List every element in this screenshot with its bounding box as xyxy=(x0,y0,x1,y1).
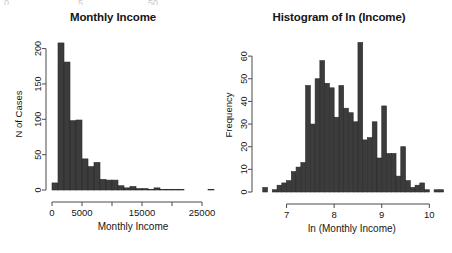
histogram-bar xyxy=(287,181,292,192)
histogram-bar xyxy=(88,167,94,190)
y-tick-label: 50 xyxy=(33,150,43,160)
histogram-bar xyxy=(310,124,315,192)
histogram-bar xyxy=(142,189,148,190)
histogram-bar xyxy=(344,108,349,192)
y-tick-label: 100 xyxy=(33,112,43,127)
histogram-bar xyxy=(82,159,88,190)
histogram-bar xyxy=(348,113,353,192)
histogram-bar xyxy=(420,183,425,192)
histogram-bar xyxy=(434,190,439,192)
histogram-bar xyxy=(277,185,282,192)
histogram-bar xyxy=(58,43,64,190)
histogram-bar xyxy=(415,185,420,192)
histogram-bar xyxy=(306,86,311,192)
y-tick-label: 50 xyxy=(239,74,249,84)
x-tick-label: 7 xyxy=(284,209,289,220)
histogram-bar xyxy=(315,79,320,192)
y-tick-label: 0 xyxy=(33,187,43,192)
histogram-bar xyxy=(130,186,136,190)
x-tick-label: 0 xyxy=(49,207,54,218)
histogram-bar xyxy=(377,158,382,192)
y-tick-label: 20 xyxy=(239,142,249,152)
histogram-bar xyxy=(363,140,368,192)
histogram-bar xyxy=(372,122,377,192)
histogram-bar xyxy=(166,189,172,190)
histogram-bar xyxy=(339,86,344,192)
x-tick-label: 5000 xyxy=(71,207,92,218)
y-axis-title: N of Cases xyxy=(13,90,24,137)
histogram-bar xyxy=(401,147,406,192)
histogram-bar xyxy=(70,121,76,190)
x-tick-label: 25000 xyxy=(189,207,215,218)
histogram-bar xyxy=(325,83,330,192)
x-axis-title: Monthly Income xyxy=(98,221,169,232)
histogram-bar xyxy=(64,62,70,190)
histogram-bar xyxy=(382,106,387,192)
histogram-bar xyxy=(124,188,130,190)
histogram-bar xyxy=(52,183,58,190)
y-tick-label: 10 xyxy=(239,164,249,174)
histogram-bar xyxy=(263,187,268,192)
histogram-bar xyxy=(387,154,392,193)
histogram-bar xyxy=(160,189,166,190)
y-tick-label: 0 xyxy=(239,189,249,194)
y-axis: 050100150200 xyxy=(33,41,46,192)
histogram-bar xyxy=(76,120,82,190)
bars-group xyxy=(52,43,214,190)
histogram-bar xyxy=(406,181,411,192)
histogram-bar xyxy=(94,162,100,190)
histogram-bar xyxy=(172,189,178,190)
x-tick-label: 8 xyxy=(332,209,337,220)
histogram-bar xyxy=(410,187,415,192)
x-tick-label: 10 xyxy=(424,209,435,220)
histogram-bar xyxy=(301,163,306,192)
histogram-bar xyxy=(334,117,339,192)
histogram-bar xyxy=(100,179,106,190)
histogram-bar xyxy=(154,188,160,190)
histogram-bar xyxy=(118,186,124,190)
y-axis: 0102030405060 xyxy=(239,51,252,194)
histogram-bar xyxy=(208,189,214,190)
histogram-bar xyxy=(367,138,372,192)
histogram-bar xyxy=(396,176,401,192)
histogram-bar xyxy=(291,172,296,192)
plot-ln-income: 0102030405060Frequency78910ln (Monthly I… xyxy=(226,0,452,253)
y-tick-label: 200 xyxy=(33,41,43,56)
histogram-bar xyxy=(282,183,287,192)
histogram-bar xyxy=(439,190,444,192)
histogram-bar xyxy=(353,122,358,192)
x-axis: 78910 xyxy=(284,204,435,220)
histogram-bar xyxy=(329,88,334,192)
x-tick-label: 9 xyxy=(379,209,384,220)
x-axis: 050001500025000 xyxy=(49,202,215,218)
y-axis-title: Frequency xyxy=(226,92,234,137)
x-axis-title: ln (Monthly Income) xyxy=(308,223,396,234)
histogram-bar xyxy=(296,167,301,192)
figure-canvas: 0 5 50 Monthly Income 050100150200N of C… xyxy=(0,0,452,253)
plot-monthly-income: 050100150200N of Cases050001500025000Mon… xyxy=(0,0,226,253)
histogram-bar xyxy=(106,180,112,190)
y-tick-label: 40 xyxy=(239,96,249,106)
panel-ln-income: Histogram of ln (Income) 0102030405060Fr… xyxy=(226,0,452,253)
histogram-bar xyxy=(358,43,363,192)
y-tick-label: 60 xyxy=(239,51,249,61)
x-tick-label: 15000 xyxy=(129,207,155,218)
bars-group xyxy=(263,43,444,192)
histogram-bar xyxy=(320,61,325,192)
histogram-bar xyxy=(391,154,396,193)
histogram-bar xyxy=(272,190,277,192)
panel-monthly-income: Monthly Income 050100150200N of Cases050… xyxy=(0,0,226,253)
y-tick-label: 150 xyxy=(33,76,43,91)
histogram-bar xyxy=(425,190,430,192)
histogram-bar xyxy=(136,189,142,190)
y-tick-label: 30 xyxy=(239,119,249,129)
histogram-bar xyxy=(112,180,118,190)
histogram-bar xyxy=(148,189,154,190)
histogram-bar xyxy=(178,189,184,190)
